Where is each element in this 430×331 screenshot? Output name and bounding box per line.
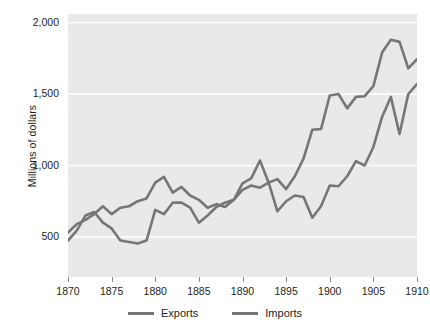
x-tick-label-1880: 1880 xyxy=(130,285,180,297)
x-tick-label-1875: 1875 xyxy=(87,285,137,297)
y-tick-label-500: 500 xyxy=(3,230,59,242)
legend-item-exports[interactable]: Exports xyxy=(128,307,198,319)
legend-swatch-exports xyxy=(128,312,154,315)
x-tick-label-1905: 1905 xyxy=(348,285,398,297)
legend-label-exports: Exports xyxy=(161,307,198,319)
x-tick-label-1900: 1900 xyxy=(305,285,355,297)
x-tick-label-1885: 1885 xyxy=(174,285,224,297)
x-tick-label-1890: 1890 xyxy=(218,285,268,297)
legend-item-imports[interactable]: Imports xyxy=(232,307,302,319)
x-tick-label-1910: 1910 xyxy=(392,285,430,297)
plot-svg xyxy=(68,14,417,277)
y-tick-label-1500: 1,500 xyxy=(3,87,59,99)
gridlines xyxy=(68,23,417,237)
x-tick-mark-1890 xyxy=(243,277,244,282)
y-tick-label-2000: 2,000 xyxy=(3,16,59,28)
legend-swatch-imports xyxy=(232,312,258,315)
x-tick-mark-1910 xyxy=(417,277,418,282)
x-tick-label-1870: 1870 xyxy=(43,285,93,297)
legend-label-imports: Imports xyxy=(265,307,302,319)
x-tick-mark-1895 xyxy=(286,277,287,282)
x-tick-mark-1870 xyxy=(68,277,69,282)
chart-legend: Exports Imports xyxy=(0,307,430,319)
x-tick-label-1895: 1895 xyxy=(261,285,311,297)
line-chart-figure: Millions of dollars 5001,0001,5002,000 1… xyxy=(0,0,430,331)
x-tick-mark-1875 xyxy=(112,277,113,282)
x-tick-mark-1900 xyxy=(330,277,331,282)
x-tick-mark-1880 xyxy=(155,277,156,282)
data-series-lines xyxy=(68,40,417,244)
plot-area xyxy=(68,14,417,277)
y-tick-label-1000: 1,000 xyxy=(3,159,59,171)
series-line-exports xyxy=(68,40,417,233)
x-tick-mark-1885 xyxy=(199,277,200,282)
x-tick-mark-1905 xyxy=(373,277,374,282)
series-line-imports xyxy=(68,84,417,243)
